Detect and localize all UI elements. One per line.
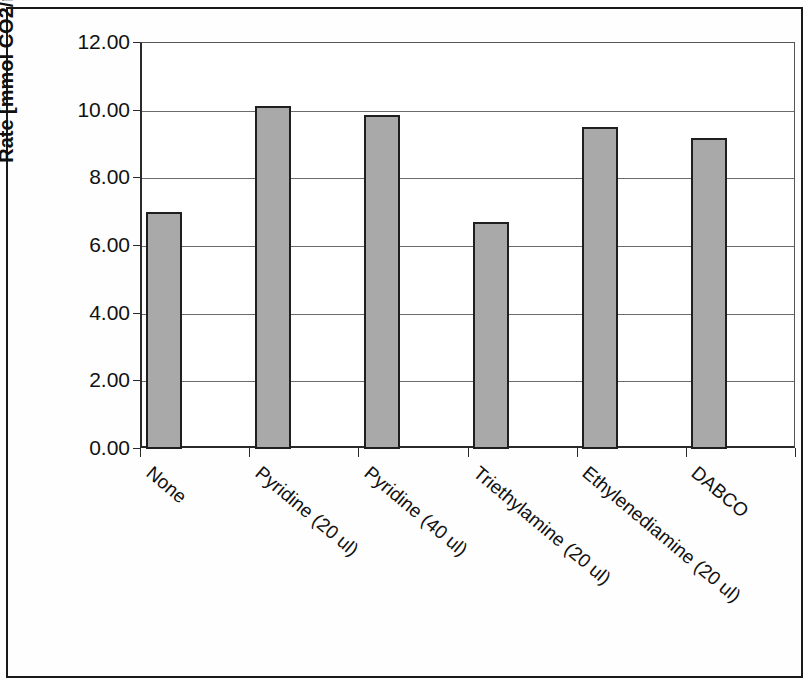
bar — [364, 115, 400, 449]
x-tick-mark — [468, 448, 469, 457]
y-tick-label: 10.00 — [0, 98, 130, 122]
x-tick-mark — [686, 448, 687, 457]
y-tick-mark — [133, 110, 140, 111]
y-tick-mark — [133, 177, 140, 178]
y-tick-mark — [133, 245, 140, 246]
y-tick-label: 4.00 — [0, 301, 130, 325]
x-tick-mark — [140, 448, 141, 457]
y-tick-mark — [133, 448, 140, 449]
y-tick-label: 6.00 — [0, 233, 130, 257]
x-tick-mark — [249, 448, 250, 457]
gridline-10.00 — [142, 111, 794, 112]
y-tick-label: 2.00 — [0, 368, 130, 392]
y-tick-mark — [133, 42, 140, 43]
x-tick-mark — [358, 448, 359, 457]
y-tick-label: 12.00 — [0, 30, 130, 54]
y-tick-label: 8.00 — [0, 165, 130, 189]
plot-area — [140, 42, 795, 448]
y-tick-mark — [133, 313, 140, 314]
x-tick-mark — [795, 448, 796, 457]
bar — [255, 106, 291, 449]
bar — [146, 212, 182, 449]
bar — [691, 138, 727, 449]
bar — [582, 127, 618, 449]
y-tick-label: 0.00 — [0, 436, 130, 460]
y-tick-mark — [133, 380, 140, 381]
bar — [473, 222, 509, 449]
figure-container: Rate [mmol CO2/min g cat] 12.0010.008.00… — [0, 0, 812, 685]
x-tick-mark — [577, 448, 578, 457]
